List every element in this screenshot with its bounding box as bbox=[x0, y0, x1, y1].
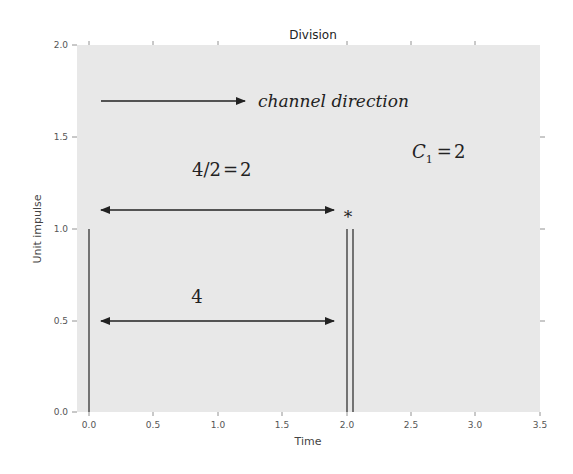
chart-title: Division bbox=[289, 28, 337, 42]
x-tick-label: 3.0 bbox=[468, 420, 483, 430]
y-tick-label: 1.0 bbox=[54, 224, 69, 234]
x-axis-label: Time bbox=[294, 435, 322, 448]
y-tick-label: 0.5 bbox=[54, 316, 68, 326]
y-tick-label: 2.0 bbox=[54, 40, 69, 50]
x-tick-label: 0.0 bbox=[82, 420, 97, 430]
length-label: 4 bbox=[191, 286, 202, 307]
x-tick-label: 1.0 bbox=[211, 420, 226, 430]
x-tick-label: 1.5 bbox=[275, 420, 289, 430]
chart: Division 2.0 1.5 1.0 0.5 0.0 Unit impuls… bbox=[0, 0, 573, 474]
x-tick-label: 3.5 bbox=[533, 420, 547, 430]
y-axis-label: Unit impulse bbox=[31, 194, 44, 263]
y-tick-label: 0.0 bbox=[54, 407, 69, 417]
x-tick-label: 2.5 bbox=[404, 420, 418, 430]
channel-direction-label: channel direction bbox=[258, 91, 409, 111]
star-marker: * bbox=[344, 207, 353, 227]
y-tick-label: 1.5 bbox=[54, 132, 68, 142]
x-tick-label: 0.5 bbox=[146, 420, 160, 430]
x-tick-label: 2.0 bbox=[340, 420, 355, 430]
